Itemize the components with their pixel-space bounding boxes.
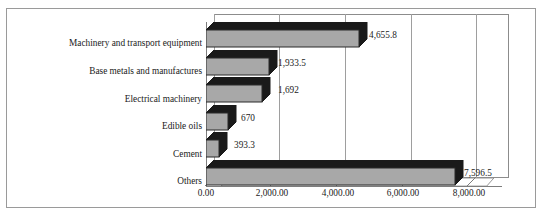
plot-area: [206, 14, 510, 186]
category-label: Edible oils: [14, 121, 202, 131]
gridline-8000: [476, 14, 477, 178]
category-axis-labels: Machinery and transport equipmentBase me…: [14, 14, 202, 186]
data-label-electrical-machinery: 1,692: [278, 85, 299, 95]
data-label-others: 7,596.5: [464, 168, 492, 178]
bar-cement[interactable]: [206, 132, 236, 158]
value-axis-line: [206, 186, 502, 187]
bar-base-metals-and-manufactures[interactable]: [206, 50, 286, 76]
bar-chart-figure: Machinery and transport equipmentBase me…: [0, 0, 543, 216]
xtick-label: 0.00: [198, 188, 214, 198]
bar-others[interactable]: [206, 160, 472, 186]
bar-electrical-machinery[interactable]: [206, 77, 278, 103]
category-label: Cement: [14, 149, 202, 159]
category-label: Machinery and transport equipment: [14, 38, 202, 48]
xtick-label: 2,000.00: [256, 188, 289, 198]
bar-edible-oils[interactable]: [206, 105, 246, 131]
category-label: Electrical machinery: [14, 94, 202, 104]
xtick-label: 8,000.00: [453, 188, 486, 198]
bar-machinery-and-transport-equipment[interactable]: [206, 22, 376, 48]
xtick-label: 4,000.00: [322, 188, 355, 198]
data-label-edible-oils: 670: [241, 113, 255, 123]
gridline-6000: [411, 14, 412, 178]
category-label: Base metals and manufactures: [14, 66, 202, 76]
data-label-base-metals-and-manufactures: 1,933.5: [278, 58, 306, 68]
value-axis-tick-labels: 0.00 2,000.00 4,000.00 6,000.00 8,000.00: [206, 188, 526, 204]
category-label: Others: [14, 176, 202, 186]
data-label-machinery-and-transport-equipment: 4,655.8: [369, 30, 397, 40]
xtick-label: 6,000.00: [387, 188, 420, 198]
data-label-cement: 393.3: [234, 140, 255, 150]
